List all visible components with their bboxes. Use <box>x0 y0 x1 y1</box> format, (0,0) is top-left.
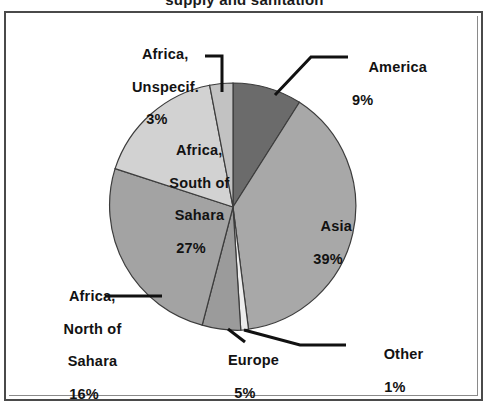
slice-label-africa-north-of-sahara: Africa, North of Sahara 16% <box>18 272 150 409</box>
slice-value-africa-unspecif: 3% <box>92 111 222 127</box>
chart-title-cropped: supply and sanitation <box>0 0 489 11</box>
slice-label-africa-north-of-sahara-line2: North of <box>63 321 121 337</box>
slice-label-africa-unspecif-line2: Unspecif. <box>132 79 199 95</box>
slice-label-africa-south-of-sahara-line2: South of <box>169 175 229 191</box>
slice-label-africa-north-of-sahara-line3: Sahara <box>68 353 118 369</box>
slice-label-africa-south-of-sahara: Africa, South of Sahara 27% <box>128 126 254 288</box>
slice-label-other-line1: Other <box>384 346 424 362</box>
slice-value-africa-south-of-sahara: 27% <box>128 240 254 256</box>
slice-label-other: Other 1% <box>350 330 440 409</box>
slice-label-asia: Asia 39% <box>283 202 373 299</box>
slice-value-europe: 5% <box>190 385 300 401</box>
slice-label-europe-line1: Europe <box>228 352 279 368</box>
slice-value-other: 1% <box>350 379 440 395</box>
slice-label-africa-unspecif-line1: Africa, <box>142 46 189 62</box>
slice-label-america-line1: America <box>368 59 427 75</box>
slice-label-asia-line1: Asia <box>320 218 351 234</box>
slice-label-africa-south-of-sahara-line1: Africa, <box>176 142 223 158</box>
slice-value-america: 9% <box>352 92 462 108</box>
chart-title: supply and sanitation <box>0 0 489 11</box>
slice-value-asia: 39% <box>283 251 373 267</box>
slice-label-europe: Europe 5% <box>190 336 300 409</box>
slice-label-america: America 9% <box>352 43 462 140</box>
pie-chart-figure: supply and sanitation <box>0 0 489 409</box>
slice-label-africa-north-of-sahara-line1: Africa, <box>69 288 116 304</box>
slice-value-africa-north-of-sahara: 16% <box>18 386 150 402</box>
slice-label-africa-south-of-sahara-line3: Sahara <box>175 207 225 223</box>
